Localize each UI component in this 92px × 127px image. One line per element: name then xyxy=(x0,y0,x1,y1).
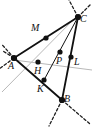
label-C: C xyxy=(80,14,87,24)
label-H: H xyxy=(34,66,41,76)
label-M: M xyxy=(31,23,39,33)
point-H xyxy=(35,59,40,64)
solid-lines xyxy=(14,17,78,100)
point-L xyxy=(68,54,73,59)
points xyxy=(11,14,81,103)
point-P xyxy=(57,49,62,54)
label-A: A xyxy=(8,61,14,71)
point-M xyxy=(43,35,48,40)
auxiliary-lines xyxy=(2,14,92,92)
label-B: B xyxy=(64,94,70,104)
label-L: L xyxy=(74,57,80,67)
cevian-C-to-K xyxy=(44,17,78,80)
point-K xyxy=(41,77,46,82)
dash-B-down-left xyxy=(49,100,62,126)
label-P: P xyxy=(56,56,62,66)
label-K: K xyxy=(37,84,44,94)
